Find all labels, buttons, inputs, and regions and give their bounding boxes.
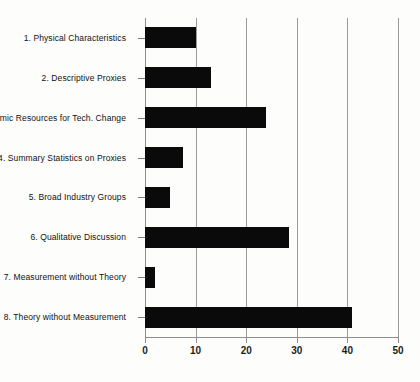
x-tick-40 — [347, 337, 348, 343]
bar-1 — [145, 27, 196, 48]
gridline-40 — [347, 18, 348, 337]
gridline-30 — [297, 18, 298, 337]
category-label-4: 4. Summary Statistics on Proxies — [0, 153, 126, 163]
gridline-10 — [196, 18, 197, 337]
bar-2 — [145, 67, 211, 88]
x-tick-label-0: 0 — [142, 345, 148, 356]
bar-chart: 1. Physical Characteristics2. Descriptiv… — [0, 0, 420, 382]
x-axis-line — [145, 337, 399, 338]
category-tick-3 — [138, 118, 145, 119]
category-label-8: 8. Theory without Measurement — [4, 312, 126, 322]
category-label-column: 1. Physical Characteristics2. Descriptiv… — [0, 0, 136, 382]
x-tick-label-40: 40 — [342, 345, 353, 356]
category-tick-7 — [138, 277, 145, 278]
category-tick-1 — [138, 38, 145, 39]
x-tick-label-20: 20 — [241, 345, 252, 356]
gridline-0 — [145, 18, 146, 337]
category-tick-8 — [138, 317, 145, 318]
category-tick-2 — [138, 78, 145, 79]
x-tick-label-10: 10 — [190, 345, 201, 356]
category-label-6: 6. Qualitative Discussion — [30, 232, 126, 242]
category-label-5: 5. Broad Industry Groups — [29, 192, 126, 202]
x-tick-50 — [398, 337, 399, 343]
category-tick-5 — [138, 197, 145, 198]
bar-7 — [145, 267, 155, 288]
category-label-3: 3. Economic Resources for Tech. Change — [0, 113, 126, 123]
category-label-2: 2. Descriptive Proxies — [42, 73, 126, 83]
bar-5 — [145, 187, 170, 208]
gridline-20 — [246, 18, 247, 337]
gridline-50 — [398, 18, 399, 337]
category-tick-4 — [138, 158, 145, 159]
bar-4 — [145, 147, 183, 168]
bar-8 — [145, 307, 352, 328]
plot-area — [145, 18, 398, 337]
category-tick-6 — [138, 237, 145, 238]
x-tick-label-50: 50 — [392, 345, 403, 356]
bar-3 — [145, 107, 266, 128]
bar-6 — [145, 227, 289, 248]
x-tick-30 — [297, 337, 298, 343]
category-label-7: 7. Measurement without Theory — [4, 272, 126, 282]
x-tick-20 — [246, 337, 247, 343]
x-tick-10 — [196, 337, 197, 343]
x-tick-0 — [145, 337, 146, 343]
x-tick-label-30: 30 — [291, 345, 302, 356]
category-label-1: 1. Physical Characteristics — [24, 33, 126, 43]
